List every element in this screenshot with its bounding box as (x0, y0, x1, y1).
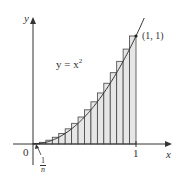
riemann-rectangle (78, 117, 84, 144)
x-axis-label: x (166, 149, 171, 160)
curve-equation-base: y = x (56, 58, 79, 70)
curve-equation-label: y = x2 (56, 58, 82, 70)
riemann-rectangles (33, 36, 136, 144)
point-1-1-marker (134, 34, 137, 37)
origin-label: 0 (23, 147, 29, 158)
riemann-sum-figure: y x 0 1 (1, 1) y = x2 1 n (0, 0, 182, 179)
x-axis-arrow-icon (165, 141, 172, 147)
y-axis-arrow-icon (30, 17, 36, 24)
riemann-rectangle (85, 110, 91, 144)
riemann-rectangle (130, 36, 136, 144)
riemann-rectangle (110, 73, 116, 144)
riemann-rectangle (123, 49, 129, 144)
width-fraction-denominator: n (41, 166, 45, 174)
tick-one-label: 1 (133, 148, 139, 159)
riemann-rectangle (117, 61, 123, 144)
y-axis-label: y (24, 13, 29, 24)
point-label: (1, 1) (142, 31, 164, 41)
curve-equation-exponent: 2 (79, 57, 83, 65)
width-fraction-label: 1 n (40, 157, 46, 174)
